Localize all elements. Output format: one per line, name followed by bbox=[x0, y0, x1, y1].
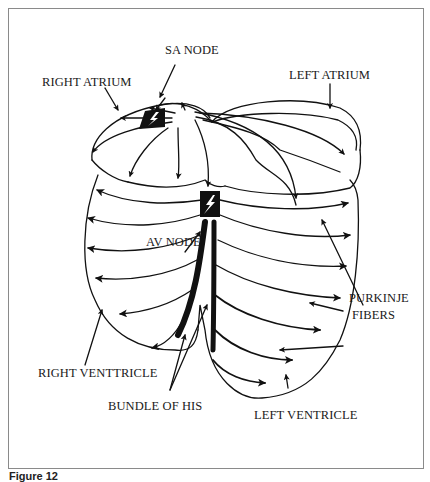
label-sa-node: SA NODE bbox=[165, 44, 219, 57]
label-right-ventricle: RIGHT VENTTRICLE bbox=[38, 367, 158, 380]
sa-node-marker bbox=[139, 108, 165, 129]
av-node-marker bbox=[200, 191, 220, 217]
label-purkinje-line2: FIBERS bbox=[352, 309, 395, 322]
label-left-ventricle: LEFT VENTRICLE bbox=[254, 409, 357, 422]
bundle-branch-left bbox=[213, 222, 214, 350]
label-bundle-of-his: BUNDLE OF HIS bbox=[108, 400, 202, 413]
label-right-atrium: RIGHT ATRIUM bbox=[42, 76, 132, 89]
label-left-atrium: LEFT ATRIUM bbox=[289, 69, 370, 82]
label-av-node: AV NODE bbox=[146, 236, 201, 249]
figure-caption: Figure 12 bbox=[9, 471, 58, 482]
label-purkinje-line1: PURKINJE bbox=[349, 292, 409, 305]
